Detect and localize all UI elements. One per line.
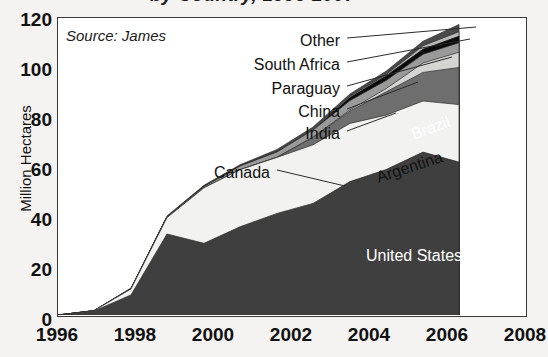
page-title: by Country, 1996-2007	[150, 0, 355, 6]
y-tick-40: 40	[31, 210, 52, 229]
callout-canada: Canada	[130, 165, 270, 181]
callout-paraguay: Paraguay	[200, 81, 340, 97]
source-note: Source: James	[66, 27, 166, 44]
x-tick-2000: 2000	[183, 325, 243, 344]
band-label-united-states: United States	[366, 248, 462, 264]
x-tick-1998: 1998	[105, 325, 165, 344]
callout-china: China	[200, 104, 340, 120]
x-tick-2008: 2008	[495, 325, 548, 344]
callout-south-africa: South Africa	[200, 57, 340, 73]
x-tick-2006: 2006	[417, 325, 477, 344]
chart-title-cropped: by Country, 1996-2007	[0, 0, 548, 14]
x-tick-1996: 1996	[27, 325, 87, 344]
y-axis-label: Million Hectares	[17, 89, 34, 229]
callout-india: India	[200, 126, 340, 142]
x-tick-2004: 2004	[339, 325, 399, 344]
y-tick-80: 80	[31, 110, 52, 129]
x-tick-2002: 2002	[261, 325, 321, 344]
y-tick-120: 120	[20, 10, 52, 29]
callout-other: Other	[200, 33, 340, 49]
chart-figure: by Country, 1996-2007 120 100 80 60 40 2…	[0, 0, 548, 357]
y-tick-100: 100	[20, 60, 52, 79]
y-tick-60: 60	[31, 160, 52, 179]
y-tick-20: 20	[31, 260, 52, 279]
